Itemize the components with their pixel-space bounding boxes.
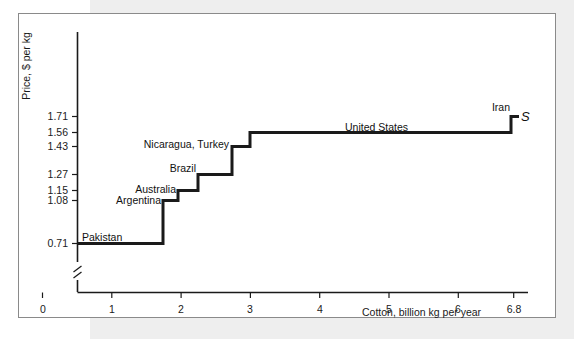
step-label-australia: Australia: [110, 183, 176, 195]
y-tick-label-0-71: 0.71: [34, 237, 68, 249]
y-tick-label-1-56: 1.56: [34, 126, 68, 138]
y-tick-label-1-08: 1.08: [34, 194, 68, 206]
chart-page: Price, $ per kg 1.71 1.56 1.43 1.27 1.15…: [0, 0, 574, 339]
y-axis-title: Price, $ per kg: [20, 18, 32, 114]
x-tick-label-6-8: 6.8: [499, 303, 529, 315]
x-tick-label-4: 4: [305, 303, 335, 315]
x-axis-title: Cotton, billion kg per year: [362, 306, 481, 318]
x-tick-label-1: 1: [97, 303, 127, 315]
step-label-iran: Iran: [478, 101, 510, 113]
supply-curve-plot: [0, 0, 574, 339]
y-tick-marks: [72, 117, 78, 244]
step-label-pakistan: Pakistan: [82, 231, 122, 243]
x-tick-label-3: 3: [235, 303, 265, 315]
x-tick-label-0: 0: [28, 303, 58, 315]
supply-step-curve: [78, 117, 519, 244]
y-tick-label-1-43: 1.43: [34, 140, 68, 152]
step-label-argentina: Argentina: [98, 194, 161, 206]
x-tick-label-2: 2: [166, 303, 196, 315]
x-tick-marks: [43, 293, 514, 299]
y-tick-label-1-27: 1.27: [34, 168, 68, 180]
step-label-united-states: United States: [345, 121, 408, 133]
step-label-nicaragua-turkey: Nicaragua, Turkey: [130, 138, 229, 150]
y-axis-break-mark: [74, 266, 82, 278]
step-label-brazil: Brazil: [156, 162, 196, 174]
y-tick-label-1-71: 1.71: [34, 110, 68, 122]
supply-curve-label: S: [521, 109, 530, 124]
